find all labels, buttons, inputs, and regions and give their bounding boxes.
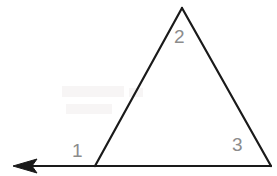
triangle-side-right	[182, 8, 271, 166]
angle-label-1: 1	[72, 141, 83, 160]
triangle-side-left	[95, 8, 182, 166]
angle-label-3: 3	[232, 135, 243, 154]
geometry-figure: 1 2 3	[0, 0, 277, 176]
angle-label-2: 2	[174, 27, 185, 46]
